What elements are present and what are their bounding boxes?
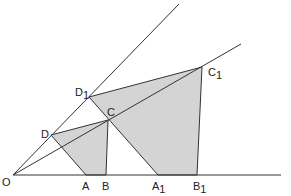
label-D: D — [41, 128, 49, 140]
label-A: A — [82, 180, 90, 192]
homothety-diagram: O A B C D A1 B1 C1 D1 — [0, 0, 291, 196]
label-C: C — [107, 106, 115, 118]
label-B: B — [102, 180, 109, 192]
label-O: O — [2, 176, 11, 188]
